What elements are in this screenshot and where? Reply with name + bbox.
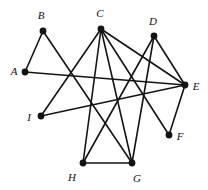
- vertex-label-e: E: [193, 81, 200, 92]
- graph-vertex-b: [40, 28, 47, 35]
- vertex-label-b: B: [38, 10, 45, 21]
- graph-canvas: [0, 0, 208, 190]
- vertex-label-c: C: [96, 8, 103, 19]
- vertex-label-h: H: [68, 172, 76, 183]
- graph-vertex-a: [22, 69, 29, 76]
- graph-figure: ABCDEFGHI: [0, 0, 208, 190]
- graph-edge-e-f: [169, 85, 185, 135]
- vertex-label-d: D: [149, 16, 157, 27]
- graph-vertex-g: [129, 160, 136, 167]
- graph-vertex-h: [80, 160, 87, 167]
- vertex-label-f: F: [177, 131, 184, 142]
- vertex-label-i: I: [27, 112, 31, 123]
- graph-edge-c-h: [83, 29, 101, 163]
- graph-edge-b-g: [43, 31, 132, 163]
- graph-vertex-f: [166, 132, 173, 139]
- vertex-label-a: A: [11, 66, 18, 77]
- graph-edge-e-i: [41, 85, 185, 116]
- graph-vertex-e: [182, 82, 189, 89]
- vertex-label-g: G: [133, 173, 141, 184]
- edge-layer: [25, 29, 185, 163]
- graph-vertex-c: [98, 26, 105, 33]
- graph-edge-a-b: [25, 31, 43, 72]
- graph-vertex-i: [38, 113, 45, 120]
- graph-edge-c-g: [101, 29, 132, 163]
- graph-vertex-d: [151, 33, 158, 40]
- graph-edge-d-e: [154, 36, 185, 85]
- graph-edge-a-e: [25, 72, 185, 85]
